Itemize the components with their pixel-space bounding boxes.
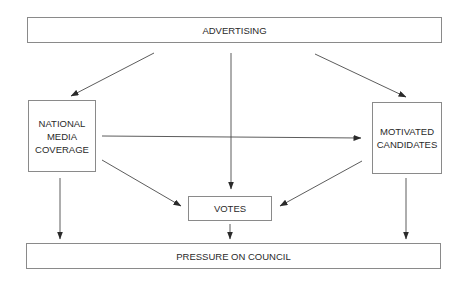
node-votes: VOTES [188,196,272,221]
node-label-line: CANDIDATES [377,138,438,151]
node-label: ADVERTISING [202,24,266,37]
node-advertising: ADVERTISING [27,17,442,43]
node-label-line: COVERAGE [35,143,89,156]
edge-national-media-to-motivated-candidates [102,136,361,138]
edge-motivated-candidates-to-votes [280,161,362,206]
node-national-media-coverage: NATIONAL MEDIA COVERAGE [28,100,96,172]
node-label-line: MEDIA [47,130,77,143]
node-label-line: NATIONAL [39,117,86,130]
node-pressure-on-council: PRESSURE ON COUNCIL [26,243,441,269]
node-label: PRESSURE ON COUNCIL [176,250,291,263]
node-label-line: MOTIVATED [380,125,434,138]
edge-advertising-to-motivated-candidates [315,54,406,97]
node-label: VOTES [214,202,246,215]
node-motivated-candidates: MOTIVATED CANDIDATES [372,102,442,174]
edge-national-media-to-votes [102,160,181,206]
edge-advertising-to-national-media [71,53,154,96]
